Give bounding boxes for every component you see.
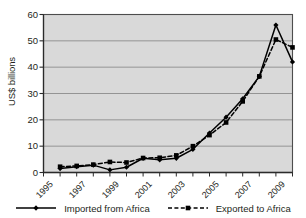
- legend-label: Exported to Africa: [216, 203, 291, 214]
- legend-item[interactable]: Exported to Africa: [167, 203, 291, 214]
- legend-solid-line-icon: [15, 203, 57, 213]
- legend-dashed-line-icon: [167, 203, 209, 213]
- x-axis-tick-labels: 19951997199920012003200520072009: [0, 0, 306, 198]
- legend-item[interactable]: Imported from Africa: [15, 203, 150, 214]
- chart-legend: Imported from AfricaExported to Africa: [0, 198, 306, 218]
- chart-container: US$ billions 0102030405060 1995199719992…: [0, 0, 306, 218]
- legend-label: Imported from Africa: [64, 203, 150, 214]
